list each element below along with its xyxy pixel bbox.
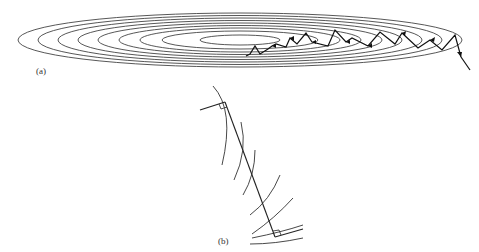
diagram-canvas [0,0,479,252]
panel-b-contour-arcs [213,86,303,244]
panel-b-segment [200,102,303,237]
panel-b-label: (b) [218,236,229,246]
panel-a-label: (a) [36,66,46,76]
panel-a-contours [18,13,462,67]
